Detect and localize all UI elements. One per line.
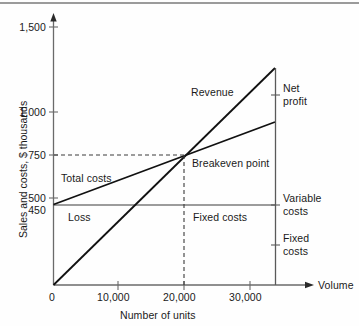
y-tick-label-450: 450 <box>8 204 46 216</box>
y-tick-label-1500: 1,500 <box>8 21 46 33</box>
x-tick-label-0: 0 <box>49 291 55 303</box>
revenue-label: Revenue <box>191 86 234 98</box>
y-axis-title: Sales and costs, $ thousands <box>17 101 29 238</box>
y-tick-label-500: 500 <box>8 192 46 204</box>
x-axis-arrow <box>305 282 314 288</box>
fixed-costs-label: Fixed costs <box>193 211 247 223</box>
variable-costs-label: Variable costs <box>283 192 322 217</box>
fixed-costs-bracket-label: Fixed costs <box>283 232 309 257</box>
y-axis-arrow <box>50 13 56 22</box>
breakeven-chart: Sales and costs, $ thousands 1,500 1,000… <box>0 0 359 326</box>
x-tick-label-20000: 20,000 <box>163 291 196 303</box>
chart-canvas <box>0 0 359 326</box>
volume-label: Volume <box>318 279 354 291</box>
y-tick-label-1000: 1,000 <box>8 106 46 118</box>
x-tick-label-30000: 30,000 <box>229 291 262 303</box>
loss-label: Loss <box>68 211 91 223</box>
y-tick-label-750: 750 <box>8 149 46 161</box>
x-axis-title: Number of units <box>120 309 196 321</box>
breakeven-point-label: Breakeven point <box>192 157 269 169</box>
net-profit-label: Net profit <box>283 82 307 107</box>
total-costs-label: Total costs <box>61 172 112 184</box>
x-tick-label-10000: 10,000 <box>97 291 130 303</box>
